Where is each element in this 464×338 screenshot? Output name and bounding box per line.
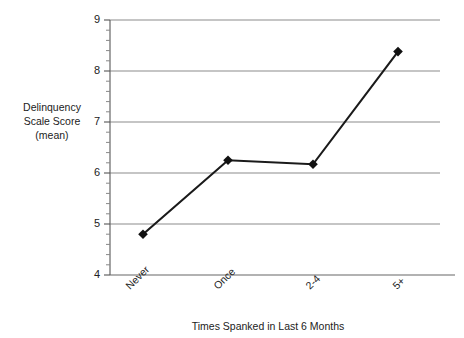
- x-axis-title: Times Spanked in Last 6 Months: [110, 320, 426, 332]
- gridlines: [110, 20, 440, 224]
- chart-figure: Delinquency Scale Score (mean) 9 8 7 6 5…: [0, 0, 464, 338]
- data-markers: [138, 47, 403, 239]
- y-axis-major-ticks: [104, 20, 110, 275]
- data-line-series-1: [143, 52, 398, 235]
